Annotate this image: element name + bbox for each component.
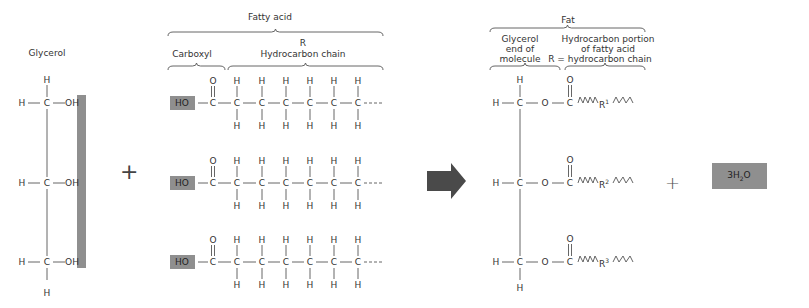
atom-h: H	[307, 122, 314, 131]
atom-carbonyl-c: C	[210, 258, 216, 267]
atom-h: H	[234, 281, 241, 290]
glycerol-end-label-3: molecule	[499, 54, 540, 64]
atom-h: H	[283, 236, 290, 245]
atom-carbonyl-o: O	[209, 157, 216, 166]
atom-chain-c: C	[259, 99, 265, 108]
ho-label: HO	[175, 178, 189, 188]
atom-h: H	[283, 202, 290, 211]
atom-h: H	[19, 258, 26, 267]
atom-h: H	[331, 77, 338, 86]
atom-carbonyl-o: O	[209, 77, 216, 86]
carboxyl-label: Carboxyl	[172, 49, 212, 59]
atom-chain-c: C	[283, 179, 289, 188]
atom-h: H	[355, 77, 362, 86]
hydrocarbon-chain-label: Hydrocarbon chain	[260, 49, 345, 59]
atom-chain-c: C	[259, 179, 265, 188]
atom-chain-c: C	[307, 179, 313, 188]
atom-ester-o: O	[566, 156, 573, 165]
atom-carbonyl-o: O	[209, 236, 216, 245]
water-label: 3H2O	[727, 170, 750, 182]
atom-h: H	[355, 157, 362, 166]
plus-sign: +	[120, 161, 138, 183]
fatty-acid-label: Fatty acid	[248, 12, 292, 22]
atom-h: H	[234, 77, 241, 86]
atom-h: H	[44, 289, 51, 298]
atom-c: C	[44, 99, 50, 108]
reaction-arrow-icon	[427, 163, 467, 199]
atom-h: H	[331, 122, 338, 131]
atom-chain-c: C	[283, 99, 289, 108]
atom-h: H	[234, 157, 241, 166]
atom-h: H	[259, 236, 266, 245]
atom-chain-c: C	[234, 179, 240, 188]
atom-h: H	[355, 236, 362, 245]
atom-h: H	[331, 236, 338, 245]
atom-chain-c: C	[355, 179, 361, 188]
atom-h: H	[307, 236, 314, 245]
atom-h: H	[355, 281, 362, 290]
atom-chain-c: C	[331, 179, 337, 188]
atom-h: H	[355, 122, 362, 131]
atom-h: H	[259, 281, 266, 290]
glycerol-end-label-2: end of	[506, 44, 535, 54]
atom-h: H	[355, 202, 362, 211]
atom-h: H	[307, 157, 314, 166]
atom-c: C	[517, 99, 523, 108]
atom-chain-c: C	[234, 99, 240, 108]
atom-h: H	[493, 258, 500, 267]
atom-c: C	[517, 258, 523, 267]
atom-h: H	[331, 202, 338, 211]
atom-c: C	[44, 179, 50, 188]
atom-h: H	[283, 77, 290, 86]
atom-h: H	[19, 99, 26, 108]
atom-h: H	[283, 122, 290, 131]
atom-ester-c: C	[567, 179, 573, 188]
dehydration-synthesis-diagram: Glycerol HHCOHHCOHHCOHH + Fatty acid Car…	[0, 0, 809, 308]
atom-h: H	[493, 99, 500, 108]
atom-ester-c: C	[567, 99, 573, 108]
atom-h: H	[44, 76, 51, 85]
r-label: R	[300, 38, 306, 48]
atom-chain-c: C	[355, 258, 361, 267]
atom-h: H	[331, 157, 338, 166]
atom-h: H	[259, 122, 266, 131]
atom-h: H	[234, 122, 241, 131]
atom-chain-c: C	[307, 258, 313, 267]
r-group-label: R3	[599, 256, 609, 269]
atom-h: H	[283, 157, 290, 166]
atom-chain-c: C	[355, 99, 361, 108]
ho-label: HO	[175, 257, 189, 267]
atom-h: H	[493, 179, 500, 188]
atom-h: H	[517, 76, 524, 85]
atom-ester-c: C	[567, 258, 573, 267]
r-group-label: R2	[599, 177, 609, 190]
atom-h: H	[307, 77, 314, 86]
atom-h: H	[331, 281, 338, 290]
atom-h: H	[234, 236, 241, 245]
atom-h: H	[259, 77, 266, 86]
products-plus-sign: +	[665, 174, 680, 192]
r-group-label: R1	[599, 97, 609, 110]
atom-h: H	[259, 202, 266, 211]
hc-portion-label-1: Hydrocarbon portion	[562, 34, 655, 44]
atom-ester-o: O	[566, 76, 573, 85]
glycerol-end-label-1: Glycerol	[502, 34, 539, 44]
atom-o: O	[541, 179, 548, 188]
atom-h: H	[307, 281, 314, 290]
atom-oh: OH	[65, 99, 79, 108]
atom-h: H	[283, 281, 290, 290]
atom-oh: OH	[65, 258, 79, 267]
atom-carbonyl-c: C	[210, 99, 216, 108]
atom-c: C	[517, 179, 523, 188]
atom-o: O	[541, 99, 548, 108]
hc-portion-label-3: R = hydrocarbon chain	[548, 54, 652, 64]
atom-oh: OH	[65, 179, 79, 188]
atom-h: H	[234, 202, 241, 211]
atom-h: H	[307, 202, 314, 211]
atom-chain-c: C	[259, 258, 265, 267]
atom-h: H	[19, 179, 26, 188]
atom-carbonyl-c: C	[210, 179, 216, 188]
atom-chain-c: C	[283, 258, 289, 267]
atom-chain-c: C	[307, 99, 313, 108]
atom-c: C	[44, 258, 50, 267]
